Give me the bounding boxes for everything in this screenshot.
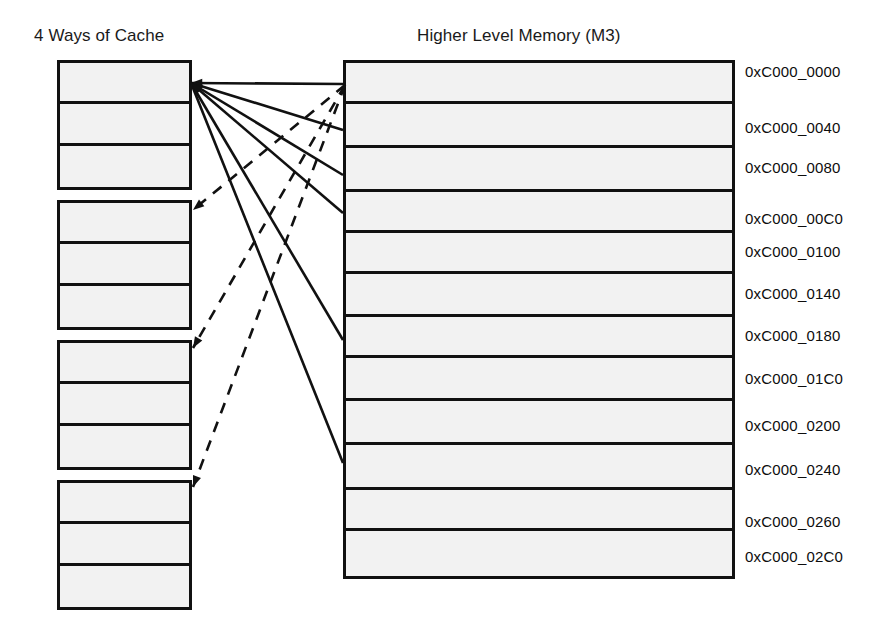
cache-title: 4 Ways of Cache [34,26,164,46]
memory-row[interactable] [346,490,732,532]
cache-way-0[interactable] [57,60,192,190]
memory-row[interactable] [346,274,732,317]
memory-row[interactable] [346,401,732,445]
memory-row[interactable] [346,317,732,359]
memory-row[interactable] [346,192,732,233]
memory-row[interactable] [346,233,732,275]
dashed-line-arrowhead [193,475,201,487]
cache-line[interactable] [60,426,189,467]
memory-block [343,60,735,579]
cache-way-1[interactable] [57,200,192,330]
memory-row[interactable] [346,445,732,489]
cache-way-3[interactable] [57,480,192,610]
memory-row[interactable] [346,63,732,104]
solid-mapping-lines [191,79,343,463]
memory-row[interactable] [346,148,732,192]
memory-address-label: 0xC000_0200 [745,417,841,434]
cache-line[interactable] [60,483,189,524]
memory-row[interactable] [346,358,732,401]
solid-mapping-line [191,83,343,340]
solid-line-arrowhead [191,83,203,92]
solid-mapping-line [191,83,343,213]
dashed-mapping-lines [193,85,345,487]
dashed-mapping-line [193,85,345,210]
memory-row[interactable] [346,104,732,148]
memory-address-label: 0xC000_0000 [745,63,841,80]
memory-address-label: 0xC000_0140 [745,285,841,302]
cache-way-2[interactable] [57,340,192,470]
memory-address-label: 0xC000_0040 [745,119,841,136]
cache-line[interactable] [60,343,189,384]
solid-mapping-line [191,83,343,175]
memory-address-label: 0xC000_00C0 [745,210,843,227]
memory-address-label: 0xC000_02C0 [745,548,843,565]
memory-address-label: 0xC000_0260 [745,513,841,530]
dashed-line-arrowhead [193,200,204,210]
memory-address-label: 0xC000_0180 [745,327,841,344]
cache-line[interactable] [60,203,189,244]
memory-title: Higher Level Memory (M3) [417,26,621,46]
solid-mapping-line [191,83,343,463]
solid-line-arrowhead [191,83,202,94]
diagram-canvas: 4 Ways of Cache Higher Level Memory (M3)… [0,0,878,630]
solid-mapping-line [191,83,343,130]
cache-line[interactable] [60,286,189,327]
dashed-mapping-line [193,85,345,487]
dashed-mapping-line [193,85,345,348]
solid-line-arrowhead [191,82,203,90]
cache-line[interactable] [60,566,189,607]
cache-line[interactable] [60,384,189,425]
cache-line[interactable] [60,244,189,285]
dashed-line-arrowhead [193,336,202,348]
solid-mapping-line [191,83,343,84]
memory-address-label: 0xC000_0240 [745,461,841,478]
memory-row[interactable] [346,531,732,575]
cache-line[interactable] [60,63,189,104]
memory-address-label: 0xC000_0100 [745,243,841,260]
cache-line[interactable] [60,104,189,145]
cache-line[interactable] [60,524,189,565]
memory-address-label: 0xC000_0080 [745,159,841,176]
cache-line[interactable] [60,146,189,187]
memory-address-label: 0xC000_01C0 [745,370,843,387]
solid-line-arrowhead [191,79,202,87]
